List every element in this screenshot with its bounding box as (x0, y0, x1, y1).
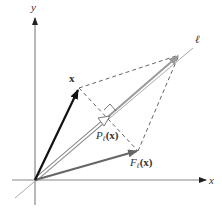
x-axis-label: x (208, 174, 214, 186)
dashed-reflection-to-sum (138, 55, 179, 151)
reflection-label: Fℓ(x) (129, 156, 153, 170)
y-axis-label: y (30, 1, 36, 13)
projection-label: Pℓ(x) (95, 129, 119, 143)
vector-x-label: x (69, 72, 75, 84)
dashed-x-to-sum (79, 55, 179, 88)
right-angle-marker (104, 104, 116, 111)
reflection-diagram: y x ℓ x Pℓ(x) Fℓ(x) (0, 0, 222, 209)
line-l-label: ℓ (195, 33, 200, 45)
vector-x (35, 90, 78, 180)
